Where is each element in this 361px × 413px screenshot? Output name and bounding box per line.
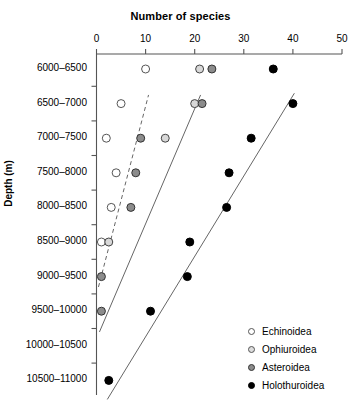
y-tick-label: 10000–10500 (1, 339, 87, 350)
point-echinoidea (142, 65, 150, 73)
point-echinoidea (102, 134, 110, 142)
legend-label: Ophiuroidea (262, 344, 316, 355)
trendline-echinoidea (98, 95, 148, 287)
point-holothuroidea (147, 307, 155, 315)
legend-item-echinoidea: Echinoidea (248, 322, 324, 340)
point-holothuroidea (225, 169, 233, 177)
legend-label: Holothuroidea (262, 380, 324, 391)
point-asteroidea (97, 307, 105, 315)
y-tick-label: 8500–9000 (1, 235, 87, 246)
point-holothuroidea (289, 100, 297, 108)
species-depth-scatter-chart: Number of species Depth (m) 01020304050 … (0, 0, 361, 413)
legend-marker-icon (248, 346, 255, 353)
y-tick-label: 8000–8500 (1, 200, 87, 211)
x-tick-label: 0 (77, 33, 117, 44)
legend-item-holothuroidea: Holothuroidea (248, 376, 324, 394)
legend-marker-icon (248, 328, 255, 335)
point-asteroidea (132, 169, 140, 177)
legend-marker-icon (248, 364, 255, 371)
x-tick-label: 10 (126, 33, 166, 44)
point-echinoidea (112, 169, 120, 177)
point-holothuroidea (247, 134, 255, 142)
point-holothuroidea (183, 273, 191, 281)
point-ophiuroidea (105, 238, 113, 246)
point-echinoidea (107, 203, 115, 211)
y-tick-label: 7000–7500 (1, 131, 87, 142)
x-tick-label: 20 (175, 33, 215, 44)
x-tick-label: 30 (224, 33, 264, 44)
point-holothuroidea (105, 376, 113, 384)
point-asteroidea (127, 203, 135, 211)
y-tick-label: 9000–9500 (1, 270, 87, 281)
point-echinoidea (97, 238, 105, 246)
legend-label: Echinoidea (262, 326, 311, 337)
x-tick-label: 40 (273, 33, 313, 44)
point-holothuroidea (186, 238, 194, 246)
y-tick-label: 6000–6500 (1, 62, 87, 73)
trendline-ophiuroidea (99, 95, 200, 332)
point-ophiuroidea (161, 134, 169, 142)
y-tick-label: 10500–11000 (1, 373, 87, 384)
chart-legend: EchinoideaOphiuroideaAsteroideaHolothuro… (248, 322, 324, 394)
point-asteroidea (208, 65, 216, 73)
y-tick-label: 6500–7000 (1, 97, 87, 108)
legend-item-asteroidea: Asteroidea (248, 358, 324, 376)
point-holothuroidea (269, 65, 277, 73)
point-asteroidea (137, 134, 145, 142)
point-ophiuroidea (196, 65, 204, 73)
y-tick-label: 9500–10000 (1, 304, 87, 315)
legend-label: Asteroidea (262, 362, 310, 373)
point-echinoidea (117, 100, 125, 108)
x-tick-label: 50 (322, 33, 361, 44)
legend-item-ophiuroidea: Ophiuroidea (248, 340, 324, 358)
point-holothuroidea (223, 203, 231, 211)
point-asteroidea (198, 100, 206, 108)
legend-marker-icon (248, 382, 255, 389)
y-tick-label: 7500–8000 (1, 166, 87, 177)
point-ophiuroidea (191, 100, 199, 108)
point-asteroidea (97, 273, 105, 281)
